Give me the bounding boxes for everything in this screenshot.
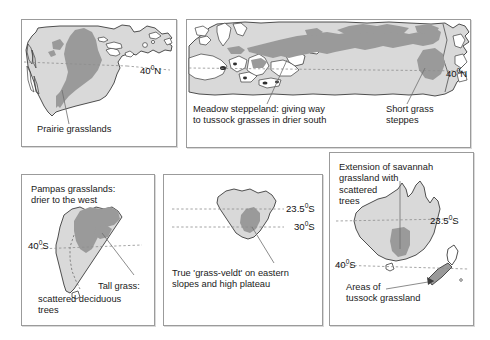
af-caption-grass-veldt: True 'grass-veldt' on eastern slopes and… (172, 268, 322, 291)
southern-africa-map (164, 175, 324, 327)
panel-eurasia: 400N Meadow steppeland: giving way to tu… (186, 19, 471, 148)
af-leader-line (252, 227, 274, 263)
eu-latitude-40n-label: 400N (446, 68, 467, 79)
sa-latitude-40s-label: 400S (28, 240, 49, 251)
panel-north-america: 400N Prairie grasslands (21, 19, 177, 147)
na-caption-prairie-grasslands: Prairie grasslands (37, 124, 167, 135)
eu-caption-meadow-steppeland: Meadow steppeland: giving way to tussock… (193, 104, 373, 127)
eurasia-map (187, 20, 472, 149)
au-caption-tussock-grassland: Areas of tussock grassland (346, 282, 466, 305)
na-latitude-40n-label: 400N (140, 65, 161, 76)
eu-caption-short-grass-steppes: Short grass steppes (386, 104, 470, 127)
sa-caption-scattered-deciduous-trees: scattered deciduous trees (38, 294, 156, 317)
au-caption-savannah-grassland: Extension of savannah grassland with sca… (339, 162, 463, 208)
af-latitude-235s-label: 23.50S (286, 203, 315, 214)
au-latitude-235s-label: 23.50S (430, 215, 459, 226)
sa-caption-tall-grass: Tall grass: (98, 281, 158, 292)
panel-africa: 23.50S 300S True 'grass-veldt' on easter… (163, 174, 323, 326)
au-new-zealand (428, 245, 462, 285)
panel-south-america: Pampas grasslands: drier to the west 400… (21, 174, 155, 326)
panel-australia: Extension of savannah grassland with sca… (329, 152, 474, 326)
au-latitude-40s-label: 400S (335, 259, 356, 270)
sa-caption-pampas-grasslands: Pampas grasslands: drier to the west (31, 184, 153, 207)
af-latitude-30s-label: 300S (294, 221, 315, 232)
grassland-figure: 400N Prairie grasslands (0, 0, 490, 340)
sa-leader-line (102, 233, 134, 275)
